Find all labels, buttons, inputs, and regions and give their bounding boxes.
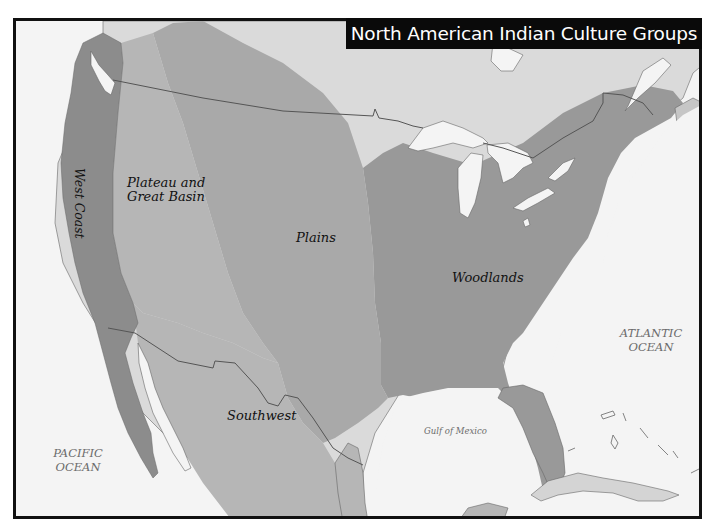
label-plateau-line2: Great Basin	[127, 189, 205, 204]
map-frame	[13, 18, 702, 519]
label-gulf-of-mexico: Gulf of Mexico	[424, 426, 487, 436]
pacific-line1: PACIFIC	[48, 446, 108, 460]
label-pacific-ocean: PACIFIC OCEAN	[48, 446, 108, 474]
map-title: North American Indian Culture Groups	[346, 18, 702, 49]
pacific-line2: OCEAN	[48, 460, 108, 474]
label-plains: Plains	[296, 230, 336, 245]
label-west-coast: West Coast	[72, 168, 87, 239]
label-woodlands: Woodlands	[452, 270, 524, 285]
atlantic-line2: OCEAN	[616, 340, 686, 354]
label-atlantic-ocean: ATLANTIC OCEAN	[616, 326, 686, 354]
label-southwest: Southwest	[227, 408, 296, 423]
atlantic-line1: ATLANTIC	[616, 326, 686, 340]
culture-groups-map	[13, 18, 702, 519]
label-plateau-line1: Plateau and	[127, 175, 205, 190]
